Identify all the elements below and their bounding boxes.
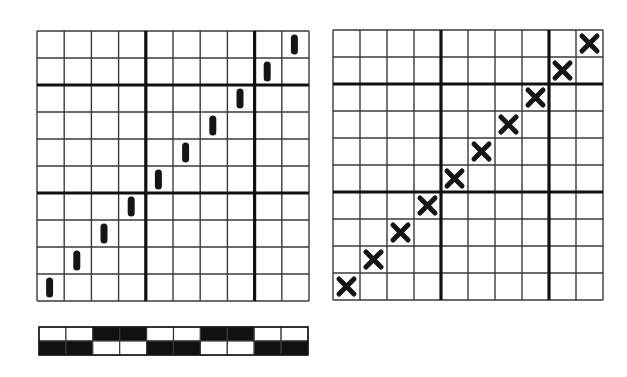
strip-cell-light (39, 327, 66, 341)
strip-cell-dark (147, 341, 174, 355)
right-cross-grid (330, 27, 606, 303)
bar-mark-icon (46, 278, 53, 298)
strip-cell-light (147, 327, 174, 341)
bar-mark-icon (101, 224, 108, 244)
strip-cell-light (66, 327, 93, 341)
bar-mark-icon (237, 89, 244, 109)
strip-cell-dark (200, 327, 227, 341)
pattern-strip-svg (37, 325, 310, 357)
cross-mark-icon (339, 279, 354, 294)
cross-mark-icon (474, 144, 489, 159)
strip-cell-dark (66, 341, 93, 355)
strip-cell-dark (174, 341, 201, 355)
strip-cell-dark (39, 341, 66, 355)
strip-cell-dark (93, 327, 120, 341)
bar-mark-icon (291, 35, 298, 55)
strip-cell-light (93, 341, 120, 355)
strip-cell-dark (254, 341, 281, 355)
cross-mark-icon (582, 36, 597, 51)
bar-mark-icon (128, 197, 135, 217)
strip-cell-light (120, 341, 147, 355)
cross-mark-icon (555, 63, 570, 78)
left-bar-grid (34, 28, 312, 304)
strip-cell-dark (227, 327, 254, 341)
cross-mark-icon (420, 198, 435, 213)
cross-mark-icon (501, 117, 516, 132)
strip-cell-light (254, 327, 281, 341)
bar-mark-icon (209, 116, 216, 136)
bar-mark-icon (73, 251, 80, 271)
cross-mark-icon (366, 252, 381, 267)
bar-mark-icon (182, 143, 189, 163)
cross-mark-icon (393, 225, 408, 240)
cross-threading-grid (330, 27, 606, 303)
strip-cell-light (174, 327, 201, 341)
strip-cell-light (281, 327, 308, 341)
strip-cell-dark (281, 341, 308, 355)
cross-mark-icon (528, 90, 543, 105)
pattern-strip (37, 325, 310, 357)
strip-cell-light (200, 341, 227, 355)
strip-cell-light (227, 341, 254, 355)
bar-threading-grid (34, 28, 312, 304)
bar-mark-icon (264, 62, 271, 82)
strip-cell-dark (120, 327, 147, 341)
cross-mark-icon (447, 171, 462, 186)
bar-mark-icon (155, 170, 162, 190)
